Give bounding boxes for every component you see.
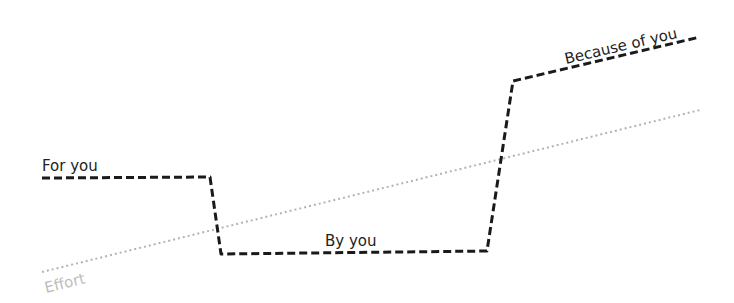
label-effort: Effort xyxy=(43,270,87,297)
label-because-of-you: Because of you xyxy=(563,24,679,68)
effort-diagram: For you By you Because of you Effort xyxy=(0,0,734,303)
label-by-you: By you xyxy=(325,232,377,250)
outcome-path xyxy=(42,37,700,254)
label-for-you: For you xyxy=(42,157,98,175)
